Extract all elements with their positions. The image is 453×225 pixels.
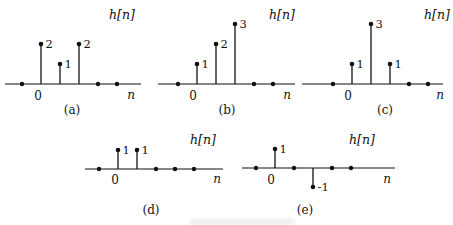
- plot-title: h[n]: [109, 7, 135, 22]
- stem-value-label: 2: [221, 37, 228, 51]
- zero-sample-dot: [176, 82, 180, 86]
- stem-value-label: 1: [280, 142, 287, 156]
- zero-sample-dot: [271, 82, 275, 86]
- zero-tick-label: 0: [111, 173, 119, 187]
- x-axis-label: n: [383, 172, 391, 186]
- stem-dot: [388, 62, 393, 67]
- zero-sample-dot: [407, 82, 411, 86]
- stem-value-label: 3: [240, 17, 247, 31]
- stem-value-label: 2: [46, 37, 53, 51]
- zero-sample-dot: [292, 166, 296, 170]
- stem-value-label: 1: [395, 57, 402, 71]
- stem-dot: [350, 62, 355, 67]
- zero-sample-dot: [173, 167, 177, 171]
- stem-plot-c: 1310nh[n](c): [302, 7, 450, 117]
- stem-dot: [58, 62, 63, 67]
- zero-sample-dot: [331, 82, 335, 86]
- zero-tick-label: 0: [344, 89, 352, 103]
- cropped-caption-ghost: [190, 219, 295, 225]
- plot-title: h[n]: [269, 7, 295, 22]
- stem-dot: [369, 22, 374, 27]
- impulse-response-figure: 2120nh[n](a)1230nh[n](b)1310nh[n](c)110n…: [0, 0, 453, 225]
- stem-dot: [233, 22, 238, 27]
- plot-title: h[n]: [190, 132, 216, 147]
- stem-dot: [135, 148, 140, 153]
- zero-sample-dot: [97, 167, 101, 171]
- plot-caption: (b): [218, 103, 235, 117]
- zero-tick-label: 0: [267, 173, 275, 187]
- plot-caption: (c): [377, 103, 393, 117]
- zero-sample-dot: [254, 166, 258, 170]
- zero-sample-dot: [426, 82, 430, 86]
- stem-plot-e: 1-10nh[n](e): [242, 132, 395, 217]
- x-axis-label: n: [127, 88, 135, 102]
- stem-value-label: 3: [376, 17, 383, 31]
- zero-sample-dot: [96, 82, 100, 86]
- stem-value-label: 1: [357, 57, 364, 71]
- stem-value-label: 1: [123, 143, 130, 157]
- zero-tick-label: 0: [34, 89, 42, 103]
- zero-sample-dot: [349, 166, 353, 170]
- zero-sample-dot: [330, 166, 334, 170]
- stem-value-label: 1: [142, 143, 149, 157]
- stem-dot: [195, 62, 200, 67]
- plot-title: h[n]: [424, 7, 450, 22]
- zero-sample-dot: [154, 167, 158, 171]
- plot-caption: (e): [297, 203, 313, 217]
- stem-value-label: -1: [318, 180, 329, 194]
- plot-caption: (d): [142, 203, 159, 217]
- stem-plot-a: 2120nh[n](a): [5, 7, 141, 117]
- zero-sample-dot: [252, 82, 256, 86]
- plot-title: h[n]: [349, 132, 375, 147]
- zero-sample-dot: [115, 82, 119, 86]
- x-axis-label: n: [436, 88, 444, 102]
- zero-sample-dot: [192, 167, 196, 171]
- stem-plot-d: 110nh[n](d): [85, 132, 223, 217]
- stem-dot: [116, 148, 121, 153]
- stem-dot: [311, 185, 316, 190]
- stem-value-label: 1: [202, 57, 209, 71]
- stem-plot-b: 1230nh[n](b): [158, 7, 295, 117]
- x-axis-label: n: [283, 88, 291, 102]
- x-axis-label: n: [213, 172, 221, 186]
- stem-dot: [77, 42, 82, 47]
- stem-value-label: 2: [84, 37, 91, 51]
- plot-caption: (a): [64, 103, 81, 117]
- zero-tick-label: 0: [189, 89, 197, 103]
- stem-plots-svg: 2120nh[n](a)1230nh[n](b)1310nh[n](c)110n…: [0, 0, 453, 225]
- stem-dot: [214, 42, 219, 47]
- zero-sample-dot: [20, 82, 24, 86]
- stem-value-label: 1: [65, 57, 72, 71]
- stem-dot: [273, 147, 278, 152]
- stem-dot: [39, 42, 44, 47]
